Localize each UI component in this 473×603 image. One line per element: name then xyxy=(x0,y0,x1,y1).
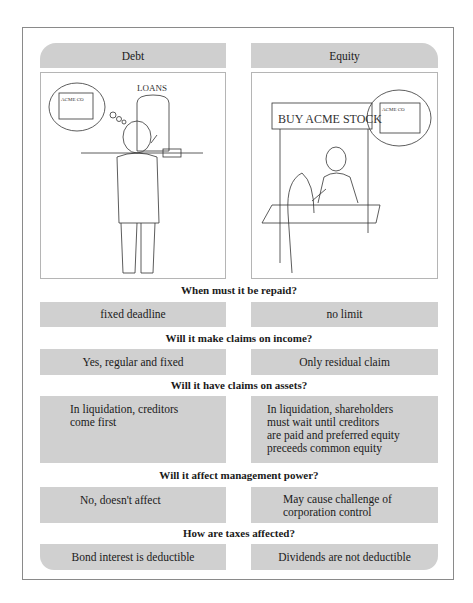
equity-header-label: Equity xyxy=(329,50,360,62)
equity-assets-line: preceeds common equity xyxy=(267,442,438,455)
debt-header: Debt xyxy=(40,43,226,68)
debt-income: Yes, regular and fixed xyxy=(40,349,226,375)
question-assets: Will it have claims on assets? xyxy=(40,379,438,391)
equity-management-line: corporation control xyxy=(283,506,438,519)
debt-assets-line: come first xyxy=(70,416,226,429)
equity-assets-line: must wait until creditors xyxy=(267,416,438,429)
question-repayment: When must it be repaid? xyxy=(40,284,438,296)
equity-management-line: May cause challenge of xyxy=(283,493,438,506)
equity-header: Equity xyxy=(251,43,438,68)
equity-assets: In liquidation, shareholders must wait u… xyxy=(251,396,438,463)
stock-booth-icon: BUY ACME STOCK ACME CO xyxy=(252,73,437,278)
svg-text:LOANS: LOANS xyxy=(137,83,167,93)
equity-assets-line: In liquidation, shareholders xyxy=(267,403,438,416)
man-at-loan-window-icon: ACME CO LOANS xyxy=(41,73,225,278)
debt-management: No, doesn't affect xyxy=(40,487,226,523)
question-income: Will it make claims on income? xyxy=(40,332,438,344)
equity-illustration: BUY ACME STOCK ACME CO xyxy=(251,72,438,279)
debt-illustration: ACME CO LOANS xyxy=(40,72,226,279)
equity-assets-line: are paid and preferred equity xyxy=(267,429,438,442)
debt-repayment: fixed deadline xyxy=(40,302,226,327)
question-management: Will it affect management power? xyxy=(40,469,438,481)
question-taxes: How are taxes affected? xyxy=(40,527,438,539)
debt-assets-line: In liquidation, creditors xyxy=(70,403,226,416)
svg-text:ACME CO: ACME CO xyxy=(61,97,84,102)
debt-assets: In liquidation, creditors come first xyxy=(40,396,226,463)
debt-taxes: Bond interest is deductible xyxy=(40,544,226,570)
equity-income: Only residual claim xyxy=(251,349,438,375)
equity-management: May cause challenge of corporation contr… xyxy=(251,487,438,523)
svg-text:ACME CO: ACME CO xyxy=(382,107,405,112)
equity-repayment: no limit xyxy=(251,302,438,327)
equity-taxes: Dividends are not deductible xyxy=(251,544,438,570)
debt-header-label: Debt xyxy=(122,50,144,62)
